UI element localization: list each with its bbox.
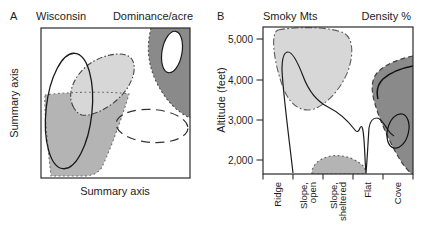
panel-b: B Smoky Mts Density % [215,10,413,221]
x-category-flat: Flat [362,182,373,198]
panel-b-x-axis [263,174,413,180]
y-tick-label-5000: 5,000 [228,34,253,45]
x-category-label: open [307,182,318,203]
panel-a-y-axis-label: Summary axis [8,68,20,138]
y-tick-label-3000: 3,000 [228,115,253,126]
x-category-label: Flat [362,182,373,198]
panel-a-title: Wisconsin [36,10,86,22]
panel-a-corner-annotation: Dominance/acre [113,10,193,22]
x-category-label: sheltered [337,182,348,221]
panel-a-x-axis-label: Summary axis [80,185,150,197]
panel-b-letter: B [217,10,224,22]
x-category-slope-sheltered: Slope, sheltered [328,182,349,221]
x-category-label: Ridge [272,182,283,207]
panel-a-letter: A [10,10,18,22]
x-category-slope-open: Slope, open [298,182,319,209]
x-category-label: Cove [392,182,403,204]
panel-b-y-axis [257,39,264,160]
panel-b-corner-annotation: Density % [361,10,411,22]
x-category-cove: Cove [392,182,403,204]
x-category-ridge: Ridge [272,182,283,207]
panel-a: A Wisconsin Dominance/acre [8,10,193,197]
y-tick-label-4000: 4,000 [228,75,253,86]
figure-canvas: A Wisconsin Dominance/acre [0,0,430,233]
panel-b-title: Smoky Mts [263,10,318,22]
y-tick-label-2000: 2,000 [228,155,253,166]
two-panel-ordination-figure: A Wisconsin Dominance/acre [0,0,430,233]
panel-b-y-axis-label: Altitude (feet) [215,67,227,132]
